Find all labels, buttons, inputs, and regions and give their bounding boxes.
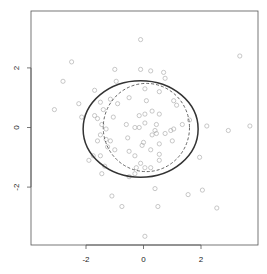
data-point (98, 154, 102, 158)
data-point (143, 87, 147, 91)
data-point (134, 166, 138, 170)
data-point (170, 139, 174, 143)
data-point (139, 161, 143, 165)
data-point (113, 67, 117, 71)
y-axis: -202 (12, 65, 31, 191)
data-point (110, 194, 114, 198)
data-point (153, 187, 157, 191)
data-point (238, 54, 242, 58)
plot-frame (31, 11, 258, 245)
data-point (108, 139, 112, 143)
data-point (157, 90, 161, 94)
data-point (149, 69, 153, 73)
data-point (137, 125, 141, 129)
data-point (133, 154, 137, 158)
x-tick-label: 0 (141, 255, 146, 264)
scatter-chart: -202 -202 (0, 0, 267, 274)
data-point (116, 102, 120, 106)
data-point (52, 108, 56, 112)
y-tick-label: 0 (12, 125, 21, 130)
data-point (150, 109, 154, 113)
x-axis: -202 (82, 245, 203, 264)
data-point (137, 114, 141, 118)
data-point (163, 131, 167, 135)
data-point (163, 76, 167, 80)
data-point (154, 122, 158, 126)
x-tick-label: -2 (82, 255, 90, 264)
data-point (93, 88, 97, 92)
data-point (95, 139, 99, 143)
data-point (120, 204, 124, 208)
data-point (61, 79, 65, 83)
data-point (126, 136, 130, 140)
data-point (144, 99, 148, 103)
data-point (198, 155, 202, 159)
data-point (133, 172, 137, 176)
data-point (149, 148, 153, 152)
data-point (80, 115, 84, 119)
y-tick-label: -2 (12, 183, 21, 191)
data-point (215, 206, 219, 210)
data-point (101, 108, 105, 112)
data-point (127, 96, 131, 100)
data-point (143, 166, 147, 170)
data-point (104, 127, 108, 131)
data-point (77, 102, 81, 106)
data-point (100, 172, 104, 176)
data-point (70, 60, 74, 64)
data-point (162, 70, 166, 74)
data-point (157, 152, 161, 156)
data-point (186, 193, 190, 197)
data-point (157, 158, 161, 162)
data-point (111, 115, 115, 119)
data-point (172, 99, 176, 103)
data-point (133, 125, 137, 129)
data-point (95, 117, 99, 121)
data-point (113, 148, 117, 152)
data-point (143, 121, 147, 125)
data-point (175, 103, 179, 107)
data-point (226, 128, 230, 132)
data-point (114, 79, 118, 83)
data-point (248, 124, 252, 128)
scatter-points (52, 38, 252, 239)
data-point (149, 166, 153, 170)
data-point (139, 67, 143, 71)
data-point (124, 122, 128, 126)
data-point (87, 158, 91, 162)
x-tick-label: 2 (199, 255, 204, 264)
data-point (205, 124, 209, 128)
data-point (157, 142, 161, 146)
data-point (127, 149, 131, 153)
data-point (156, 204, 160, 208)
data-point (139, 38, 143, 42)
data-point (180, 122, 184, 126)
data-point (98, 100, 102, 104)
data-point (157, 112, 161, 116)
data-point (143, 112, 147, 116)
data-point (200, 188, 204, 192)
data-point (143, 234, 147, 238)
y-tick-label: 2 (12, 65, 21, 70)
dashed-ellipse (103, 83, 189, 171)
data-point (98, 133, 102, 137)
data-point (150, 133, 154, 137)
